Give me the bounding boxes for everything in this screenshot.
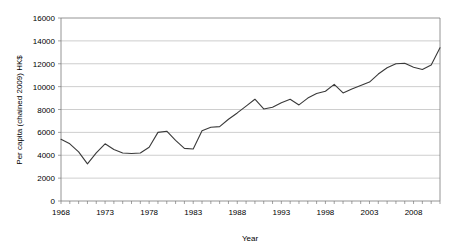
- y-axis-ticks: 0200040006000800010000120001400016000: [33, 14, 61, 206]
- y-tick-label: 0: [51, 197, 56, 206]
- x-tick-label: 1973: [96, 208, 114, 217]
- y-tick-label: 14000: [33, 37, 56, 46]
- y-tick-label: 12000: [33, 60, 56, 69]
- y-tick-label: 6000: [37, 128, 55, 137]
- x-axis-title-group: Year: [242, 234, 259, 243]
- chart-figure: 0200040006000800010000120001400016000 19…: [0, 0, 462, 252]
- x-tick-label: 1988: [228, 208, 246, 217]
- x-tick-label: 1978: [140, 208, 158, 217]
- x-axis-title: Year: [242, 234, 259, 243]
- x-tick-label: 2003: [361, 208, 379, 217]
- y-tick-label: 16000: [33, 14, 56, 23]
- y-tick-label: 4000: [37, 151, 55, 160]
- x-tick-label: 2008: [405, 208, 423, 217]
- x-tick-label: 1998: [317, 208, 335, 217]
- y-axis-title: Per capita (chained 2009) HK$: [15, 55, 24, 165]
- y-tick-label: 10000: [33, 83, 56, 92]
- y-tick-label: 2000: [37, 174, 55, 183]
- x-axis-ticks: 196819731978198319881993199820032008: [52, 201, 440, 217]
- x-tick-label: 1983: [184, 208, 202, 217]
- x-tick-label: 1968: [52, 208, 70, 217]
- y-axis-title-group: Per capita (chained 2009) HK$: [15, 55, 24, 165]
- y-tick-label: 8000: [37, 106, 55, 115]
- line-chart: 0200040006000800010000120001400016000 19…: [0, 0, 462, 252]
- x-tick-label: 1993: [272, 208, 290, 217]
